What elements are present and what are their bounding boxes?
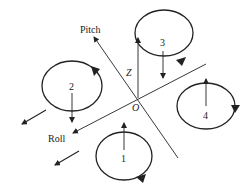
rotor-1-label: 1	[121, 153, 126, 164]
rotor-2-label: 2	[69, 81, 74, 92]
roll-label: Roll	[48, 133, 65, 144]
pitch-label: Pitch	[80, 24, 101, 35]
rotor-2: 2	[42, 61, 102, 122]
rotor-4: 4	[177, 79, 240, 129]
pitch-axis	[94, 37, 178, 158]
roll-direction-arrow-icon	[55, 151, 79, 165]
rotor-3-label: 3	[160, 37, 165, 48]
rotation-arrowhead-icon	[231, 105, 240, 113]
origin-label: O	[132, 102, 139, 113]
rotor-4-label: 4	[203, 110, 208, 121]
quadrotor-diagram: Pitch Roll Z O 3 2 4 1	[0, 0, 252, 195]
rotor-1: 1	[96, 123, 152, 183]
rotation-arrowhead-icon	[176, 57, 186, 66]
rotor-3: 3	[135, 10, 193, 78]
roll-direction-arrow-icon	[22, 110, 46, 124]
z-label: Z	[126, 67, 132, 78]
rotor-3-circle	[135, 10, 193, 56]
